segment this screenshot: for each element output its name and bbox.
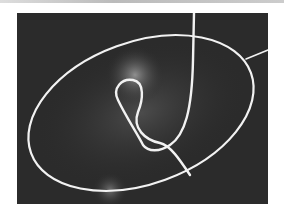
top-edge-line	[0, 0, 284, 3]
photograph	[17, 13, 268, 204]
glowing-fiber-image	[17, 13, 268, 204]
